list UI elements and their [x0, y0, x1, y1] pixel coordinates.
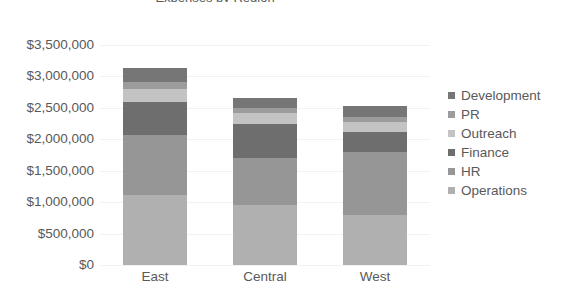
legend-swatch-icon: [448, 149, 455, 156]
legend-swatch-icon: [448, 168, 455, 175]
legend-label: HR: [461, 165, 481, 179]
legend-item-operations[interactable]: Operations: [448, 181, 571, 200]
y-axis-tick-label: $2,000,000: [0, 132, 94, 146]
bar-segment-operations[interactable]: [343, 215, 407, 265]
bar-east[interactable]: [123, 68, 187, 265]
bar-segment-development[interactable]: [343, 106, 407, 117]
bar-segment-finance[interactable]: [123, 102, 187, 135]
bar-segment-outreach[interactable]: [343, 122, 407, 132]
x-axis-tick-label: West: [320, 269, 430, 284]
bar-segment-pr[interactable]: [123, 82, 187, 89]
bar-segment-operations[interactable]: [123, 195, 187, 265]
x-axis-labels: EastCentralWest: [100, 269, 430, 295]
legend-item-finance[interactable]: Finance: [448, 143, 571, 162]
y-axis-tick-label: $1,500,000: [0, 164, 94, 178]
bar-segment-outreach[interactable]: [233, 113, 297, 124]
bar-segment-finance[interactable]: [233, 124, 297, 158]
bar-segment-outreach[interactable]: [123, 89, 187, 102]
bar-west[interactable]: [343, 106, 407, 265]
x-axis-tick-label: East: [100, 269, 210, 284]
legend-label: Development: [461, 89, 541, 103]
y-axis-labels: $0$500,000$1,000,000$1,500,000$2,000,000…: [0, 0, 94, 295]
stacked-bar-chart: Expenses by Region $0$500,000$1,000,000$…: [0, 0, 571, 295]
legend-label: Operations: [461, 184, 527, 198]
bar-segment-development[interactable]: [233, 98, 297, 108]
plot-area: [100, 45, 430, 265]
bar-central[interactable]: [233, 98, 297, 265]
legend-item-pr[interactable]: PR: [448, 105, 571, 124]
legend-swatch-icon: [448, 187, 455, 194]
chart-legend: DevelopmentPROutreachFinanceHROperations: [448, 86, 571, 200]
legend-swatch-icon: [448, 111, 455, 118]
legend-label: Finance: [461, 146, 509, 160]
legend-swatch-icon: [448, 130, 455, 137]
bar-segment-hr[interactable]: [233, 158, 297, 205]
bar-segment-finance[interactable]: [343, 132, 407, 152]
bar-segment-hr[interactable]: [343, 152, 407, 215]
gridline: [100, 45, 430, 46]
y-axis-tick-label: $3,000,000: [0, 69, 94, 83]
legend-swatch-icon: [448, 92, 455, 99]
bar-segment-hr[interactable]: [123, 135, 187, 195]
y-axis-tick-label: $500,000: [0, 227, 94, 241]
y-axis-tick-label: $2,500,000: [0, 101, 94, 115]
legend-label: PR: [461, 108, 480, 122]
gridline: [100, 265, 430, 266]
y-axis-tick-label: $3,500,000: [0, 38, 94, 52]
legend-item-hr[interactable]: HR: [448, 162, 571, 181]
x-axis-tick-label: Central: [210, 269, 320, 284]
legend-item-development[interactable]: Development: [448, 86, 571, 105]
legend-item-outreach[interactable]: Outreach: [448, 124, 571, 143]
y-axis-tick-label: $0: [0, 258, 94, 272]
bar-segment-operations[interactable]: [233, 205, 297, 265]
bar-segment-development[interactable]: [123, 68, 187, 82]
y-axis-tick-label: $1,000,000: [0, 195, 94, 209]
legend-label: Outreach: [461, 127, 517, 141]
